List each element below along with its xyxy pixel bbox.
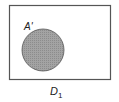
set-a-prime-circle — [22, 29, 64, 71]
set-a-prime-label: A' — [23, 21, 34, 32]
venn-diagram: A' D1 — [0, 0, 119, 102]
universe-subscript: 1 — [58, 91, 63, 100]
universe-label: D1 — [50, 85, 63, 100]
